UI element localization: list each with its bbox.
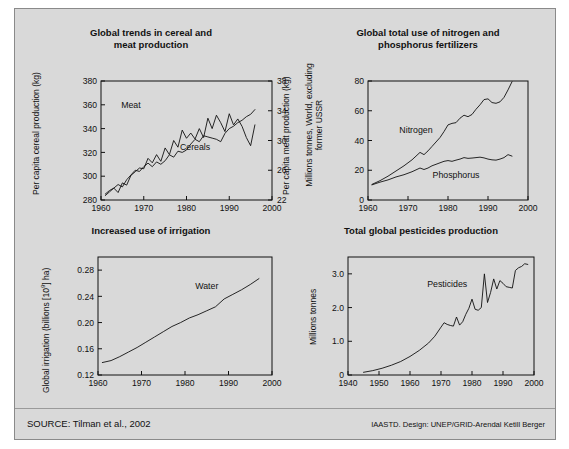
series-label-nitrogen: Nitrogen bbox=[399, 125, 432, 135]
x-tick-label: 1990 bbox=[219, 378, 238, 388]
y-tick-label: 0.12 bbox=[77, 370, 94, 380]
y-tick-label: 0 bbox=[339, 370, 344, 380]
x-tick-label: 1990 bbox=[220, 203, 239, 213]
plot-area bbox=[98, 257, 272, 375]
plot-area bbox=[368, 81, 528, 200]
x-tick-label: 1990 bbox=[478, 203, 497, 213]
y-tick-label: 1.0 bbox=[332, 336, 344, 346]
y-tick-label: 20 bbox=[354, 165, 364, 175]
y-tick-label: 360 bbox=[83, 100, 98, 110]
y-tick-label: 340 bbox=[83, 124, 98, 134]
plot-area bbox=[101, 81, 272, 200]
y-tick-label: 40 bbox=[354, 136, 364, 146]
x-tick-label: 1960 bbox=[400, 378, 419, 388]
figure-container: Global trends in cereal and meat product… bbox=[14, 8, 556, 440]
y-tick-label: 300 bbox=[83, 171, 98, 181]
footer-bar: SOURCE: Tilman et al., 2002 IAASTD. Desi… bbox=[15, 408, 555, 439]
chart-svg-cereal-meat: 1960197019801990200028030032034036038022… bbox=[15, 15, 287, 218]
x-tick-label: 1980 bbox=[462, 378, 481, 388]
y-tick-label: 0 bbox=[359, 195, 364, 205]
source-note: SOURCE: Tilman et al., 2002 bbox=[27, 418, 151, 429]
y-tick-label: 320 bbox=[83, 148, 98, 158]
y-tick-label: 2.0 bbox=[332, 303, 344, 313]
x-tick-label: 2000 bbox=[262, 378, 281, 388]
y-tick-label: 80 bbox=[354, 76, 364, 86]
series-label-water: Water bbox=[195, 281, 218, 291]
y-tick-label: 0.24 bbox=[77, 292, 94, 302]
series-label-phosphorus: Phosphorus bbox=[433, 170, 481, 180]
y-tick-label: 380 bbox=[83, 76, 98, 86]
design-credit: IAASTD. Design: UNEP/GRID-Arendal Ketill… bbox=[371, 420, 545, 429]
x-tick-label: 1980 bbox=[175, 378, 194, 388]
x-tick-label: 1950 bbox=[369, 378, 388, 388]
x-tick-label: 1970 bbox=[431, 378, 450, 388]
panel-fertilizers: Global total use of nitrogen and phospho… bbox=[286, 15, 556, 218]
x-tick-label: 2000 bbox=[524, 378, 543, 388]
chart-svg-pesticides: 194019501960197019801990200001.02.03.0Pe… bbox=[286, 217, 556, 413]
x-tick-label: 1970 bbox=[398, 203, 417, 213]
y-tick-label: 0.16 bbox=[77, 344, 94, 354]
y-tick-label: 3.0 bbox=[332, 269, 344, 279]
x-tick-label: 1970 bbox=[134, 203, 153, 213]
x-tick-label: 1980 bbox=[177, 203, 196, 213]
x-tick-label: 2000 bbox=[518, 203, 537, 213]
series-label-meat: Meat bbox=[121, 100, 141, 110]
y-tick-label: 0.28 bbox=[77, 265, 94, 275]
y-tick-label: 280 bbox=[83, 195, 98, 205]
panel-cereal-meat: Global trends in cereal and meat product… bbox=[15, 15, 287, 218]
plot-area bbox=[348, 257, 534, 375]
chart-svg-irrigation: 196019701980199020000.120.160.200.240.28… bbox=[15, 217, 287, 413]
panel-pesticides: Total global pesticides production Milli… bbox=[286, 217, 556, 413]
y-tick-label: 0.20 bbox=[77, 318, 94, 328]
chart-svg-fertilizers: 19601970198019902000020406080NitrogenPho… bbox=[286, 15, 556, 218]
series-label-cereals: Cereals bbox=[180, 142, 211, 152]
y-tick-label: 60 bbox=[354, 106, 364, 116]
series-label-pesticides: Pesticides bbox=[427, 279, 468, 289]
x-tick-label: 1990 bbox=[493, 378, 512, 388]
x-tick-label: 1970 bbox=[132, 378, 151, 388]
panel-irrigation: Increased use of irrigation Global irrig… bbox=[15, 217, 287, 413]
x-tick-label: 1980 bbox=[438, 203, 457, 213]
